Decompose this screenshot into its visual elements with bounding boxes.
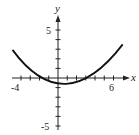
x-axis-arrow-icon bbox=[123, 76, 130, 81]
y-tick-label-max: 5 bbox=[46, 25, 51, 36]
x-tick-label-min: -4 bbox=[11, 82, 19, 93]
y-axis-arrow-icon bbox=[56, 15, 61, 22]
parabola-graph: y x -4 6 5 -5 bbox=[0, 0, 139, 135]
x-axis-label: x bbox=[130, 71, 136, 83]
y-axis-label: y bbox=[54, 2, 60, 14]
x-tick-label-max: 6 bbox=[109, 82, 114, 93]
y-tick-label-min: -5 bbox=[41, 121, 49, 132]
